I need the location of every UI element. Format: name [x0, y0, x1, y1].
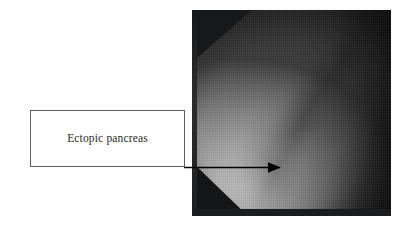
- figure-root: Ectopic pancreas: [0, 0, 419, 228]
- callout-box: Ectopic pancreas: [30, 110, 185, 167]
- endoscopy-photo: [192, 10, 391, 216]
- photo-scan-grain: [192, 10, 391, 216]
- photo-edge-bottom: [192, 209, 391, 216]
- photo-edge-left: [192, 10, 197, 216]
- arrow-head-icon: [268, 162, 281, 173]
- callout-label: Ectopic pancreas: [67, 133, 148, 145]
- leader-arrow: [183, 158, 285, 178]
